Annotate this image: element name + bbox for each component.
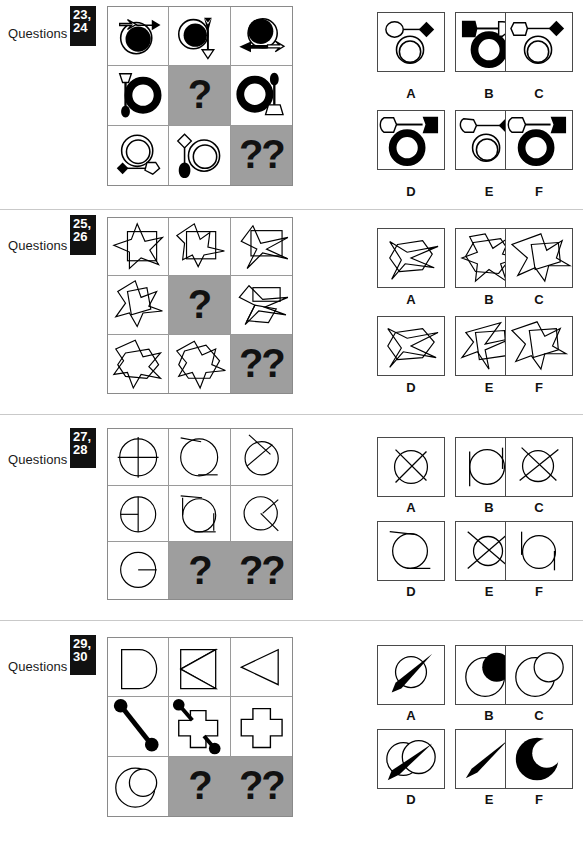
matrix-cell-r1c2[interactable] <box>169 429 230 486</box>
matrix-cell-r3c2[interactable] <box>169 126 230 185</box>
questions-label: Questions <box>8 26 67 41</box>
matrix-cell-r2c3[interactable] <box>231 697 292 756</box>
option-box-c[interactable] <box>505 12 573 72</box>
matrix-cell-r2c2-question[interactable]: ? <box>169 276 230 334</box>
matrix-cell-r1c1[interactable] <box>108 7 169 66</box>
section-separator-2 <box>0 414 583 415</box>
question-number-line2: 30 <box>73 650 96 663</box>
matrix-cell-r3c2[interactable] <box>169 335 230 393</box>
question-mark-double: ?? <box>231 542 292 599</box>
questions-label: Questions <box>8 452 67 467</box>
matrix-q29-30: ? ?? <box>107 637 293 817</box>
option-label-a: A <box>377 500 445 515</box>
matrix-cell-r3c1[interactable] <box>108 335 169 393</box>
matrix-cell-r2c2[interactable] <box>169 697 230 756</box>
option-label-f: F <box>505 584 573 599</box>
matrix-cell-r2c1[interactable] <box>108 66 169 125</box>
matrix-q27-28: ? ?? <box>107 428 293 600</box>
question-number-box: 29, 30 <box>70 635 96 675</box>
matrix-cell-r1c1[interactable] <box>108 218 169 276</box>
option-label-f: F <box>505 380 573 395</box>
question-number-line1: 29, <box>73 637 96 650</box>
matrix-cell-r3c2-question[interactable]: ? <box>169 542 230 599</box>
matrix-cell-r3c3-question[interactable]: ?? <box>231 335 292 393</box>
option-box-f[interactable] <box>505 521 573 581</box>
question-mark-single: ? <box>169 66 229 124</box>
matrix-cell-r2c1[interactable] <box>108 276 169 334</box>
matrix-cell-r2c1[interactable] <box>108 697 169 756</box>
option-box-d[interactable] <box>377 521 445 581</box>
matrix-cell-r1c1[interactable] <box>108 638 169 697</box>
question-number-box: 23, 24 <box>70 6 96 46</box>
question-mark-double: ?? <box>231 126 292 185</box>
question-mark-double: ?? <box>231 757 292 816</box>
section-separator-3 <box>0 620 583 621</box>
matrix-cell-r1c2[interactable] <box>169 638 230 697</box>
option-box-c[interactable] <box>505 645 573 705</box>
section-separator-1 <box>0 209 583 210</box>
option-box-f[interactable] <box>505 110 573 170</box>
option-box-a[interactable] <box>377 437 445 497</box>
matrix-cell-r3c1[interactable] <box>108 542 169 599</box>
option-box-f[interactable] <box>505 316 573 376</box>
option-label-c: C <box>505 708 573 723</box>
matrix-cell-r3c1[interactable] <box>108 126 169 185</box>
option-label-d: D <box>377 380 445 395</box>
matrix-cell-r2c3[interactable] <box>231 276 292 334</box>
option-label-a: A <box>377 708 445 723</box>
question-number-line1: 23, <box>73 8 96 21</box>
option-box-a[interactable] <box>377 12 445 72</box>
questions-label: Questions <box>8 659 67 674</box>
matrix-cell-r2c3[interactable] <box>231 486 292 543</box>
option-box-c[interactable] <box>505 437 573 497</box>
option-label-f: F <box>505 792 573 807</box>
matrix-cell-r1c1[interactable] <box>108 429 169 486</box>
option-label-c: C <box>505 292 573 307</box>
question-number-line2: 28 <box>73 443 96 456</box>
matrix-cell-r1c3[interactable] <box>231 7 292 66</box>
option-label-a: A <box>377 86 445 101</box>
option-label-d: D <box>377 584 445 599</box>
matrix-cell-r3c3-question[interactable]: ?? <box>231 126 292 185</box>
question-number-line2: 26 <box>73 230 96 243</box>
matrix-cell-r1c2[interactable] <box>169 218 230 276</box>
matrix-cell-r3c1[interactable] <box>108 757 169 816</box>
matrix-cell-r2c2-question[interactable]: ? <box>169 66 230 125</box>
option-label-a: A <box>377 292 445 307</box>
matrix-cell-r2c1[interactable] <box>108 486 169 543</box>
question-mark-single: ? <box>169 757 230 816</box>
question-number-line1: 25, <box>73 217 96 230</box>
matrix-cell-r1c3[interactable] <box>231 218 292 276</box>
matrix-cell-r2c2[interactable] <box>169 486 230 543</box>
matrix-cell-r1c2[interactable] <box>169 7 230 66</box>
question-mark-single: ? <box>169 542 230 599</box>
option-box-a[interactable] <box>377 228 445 288</box>
option-box-d[interactable] <box>377 110 445 170</box>
option-label-d: D <box>377 184 445 199</box>
question-mark-double: ?? <box>231 335 292 393</box>
question-number-line2: 24 <box>73 21 96 34</box>
option-box-d[interactable] <box>377 316 445 376</box>
questions-label: Questions <box>8 238 67 253</box>
matrix-cell-r1c3[interactable] <box>231 429 292 486</box>
option-label-c: C <box>505 500 573 515</box>
matrix-cell-r3c2-question[interactable]: ? <box>169 757 230 816</box>
question-number-box: 25, 26 <box>70 215 96 255</box>
option-label-c: C <box>505 86 573 101</box>
matrix-cell-r1c3[interactable] <box>231 638 292 697</box>
option-box-c[interactable] <box>505 228 573 288</box>
matrix-cell-r2c3[interactable] <box>231 66 292 125</box>
matrix-cell-r3c3-question[interactable]: ?? <box>231 542 292 599</box>
matrix-q23-24: ? <box>107 6 293 186</box>
option-label-f: F <box>505 184 573 199</box>
question-mark-single: ? <box>169 276 229 333</box>
option-box-f[interactable] <box>505 729 573 789</box>
option-box-a[interactable] <box>377 645 445 705</box>
option-label-d: D <box>377 792 445 807</box>
question-number-box: 27, 28 <box>70 428 96 468</box>
option-box-d[interactable] <box>377 729 445 789</box>
matrix-cell-r3c3-question[interactable]: ?? <box>231 757 292 816</box>
question-number-line1: 27, <box>73 430 96 443</box>
matrix-q25-26: ? <box>107 217 293 394</box>
